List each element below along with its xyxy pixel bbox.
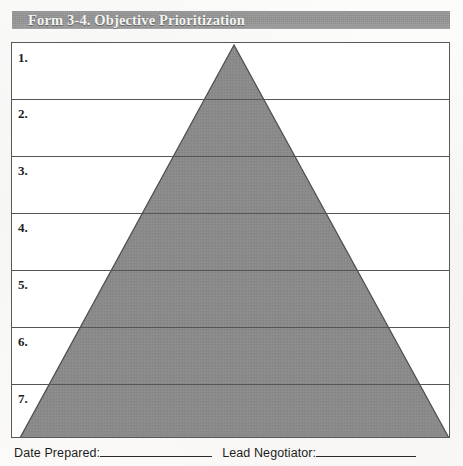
date-prepared-label: Date Prepared: bbox=[14, 444, 100, 462]
priority-pyramid-icon bbox=[12, 43, 450, 438]
page-title: Form 3-4. Objective Prioritization bbox=[28, 10, 245, 30]
lead-negotiator-label: Lead Negotiator: bbox=[222, 444, 316, 462]
lead-negotiator-input[interactable] bbox=[316, 445, 416, 457]
scanned-page: Form 3-4. Objective Prioritization 1. 2.… bbox=[0, 0, 463, 466]
footer-fields: Date Prepared:Lead Negotiator: bbox=[14, 444, 416, 462]
date-prepared-input[interactable] bbox=[100, 445, 212, 457]
form-body-box: 1. 2. 3. 4. 5. 6. 7. bbox=[11, 42, 450, 438]
